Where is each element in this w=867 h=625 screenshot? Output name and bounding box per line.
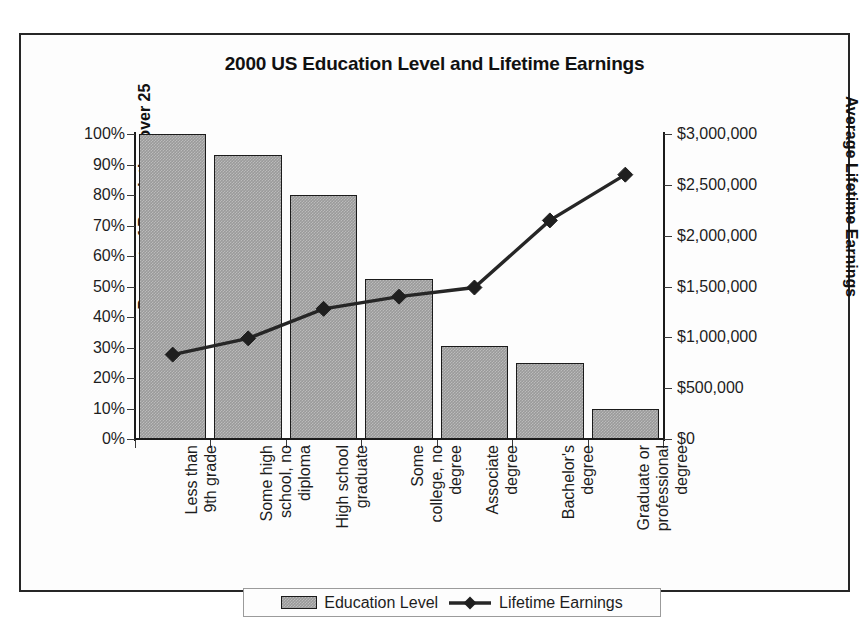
left-axis-tick-label: 30% [65, 339, 125, 357]
line-path [173, 175, 626, 355]
line-marker-diamond [165, 347, 180, 362]
line-series-lifetime-earnings [135, 134, 663, 439]
category-label: High school graduate [333, 445, 371, 590]
right-axis-tick-label: $2,000,000 [677, 227, 757, 245]
legend-entry[interactable]: Education Level [281, 594, 438, 612]
left-axis-tick-label: 20% [65, 369, 125, 387]
line-marker-diamond [316, 301, 331, 316]
right-axis-tick [664, 185, 672, 186]
right-axis-tick [664, 337, 672, 338]
left-axis-tick-label: 80% [65, 186, 125, 204]
left-axis-tick [127, 439, 135, 440]
left-axis-tick-label: 70% [65, 217, 125, 235]
legend-entry[interactable]: Lifetime Earnings [448, 594, 623, 612]
left-axis-tick-label: 90% [65, 156, 125, 174]
right-axis-tick-label: $500,000 [677, 379, 744, 397]
plot-area [135, 134, 663, 439]
left-axis-tick-label: 10% [65, 400, 125, 418]
left-axis-tick [127, 409, 135, 410]
line-marker-diamond [392, 289, 407, 304]
left-axis-tick [127, 378, 135, 379]
legend-line-diamond-swatch-icon [448, 596, 492, 610]
right-axis-title: Average Lifetime Earnings [842, 47, 861, 347]
category-label: Graduate or professional degree [634, 445, 691, 590]
left-axis-tick-label: 60% [65, 247, 125, 265]
right-axis-tick-labels: $0$500,000$1,000,000$1,500,000$2,000,000… [677, 35, 827, 590]
right-axis-tick-label: $3,000,000 [677, 125, 757, 143]
legend-label: Lifetime Earnings [499, 594, 623, 612]
category-label: Some high school, no diploma [257, 445, 314, 590]
right-axis-tick-label: $1,000,000 [677, 328, 757, 346]
right-axis-tick [664, 134, 672, 135]
category-label: Some college, no degree [408, 445, 465, 590]
right-axis-tick [664, 388, 672, 389]
right-axis-tick [664, 236, 672, 237]
chart-frame: 2000 US Education Level and Lifetime Ear… [19, 33, 850, 592]
left-axis-tick-labels: 0%10%20%30%40%50%60%70%80%90%100% [63, 35, 125, 590]
right-axis-tick [664, 287, 672, 288]
left-axis-tick-label: 100% [65, 125, 125, 143]
chart-legend: Education LevelLifetime Earnings [243, 588, 661, 617]
legend-label: Education Level [324, 594, 438, 612]
category-label: Less than 9th grade [182, 445, 220, 590]
right-axis-tick-label: $2,500,000 [677, 176, 757, 194]
category-axis-labels: Less than 9th gradeSome high school, no … [135, 445, 663, 590]
left-axis-tick-label: 50% [65, 278, 125, 296]
right-axis-tick-label: $1,500,000 [677, 278, 757, 296]
right-axis-tick [664, 439, 672, 440]
legend-bar-swatch-icon [281, 596, 317, 609]
left-axis-tick-label: 40% [65, 308, 125, 326]
left-axis-tick-label: 0% [65, 430, 125, 448]
line-marker-diamond [241, 331, 256, 346]
category-label: Associate degree [483, 445, 521, 590]
line-marker-diamond [618, 167, 633, 182]
category-label: Bachelor's degree [559, 445, 597, 590]
left-axis-tick [127, 348, 135, 349]
